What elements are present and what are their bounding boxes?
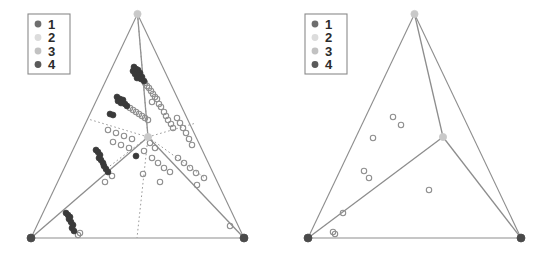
vertex-bottom-left — [304, 234, 312, 242]
legend-swatch-1 — [35, 21, 42, 28]
vertex-apex — [411, 10, 418, 17]
data-point-open-36 — [149, 155, 154, 160]
data-point-open-7 — [149, 99, 154, 104]
legend-swatch-3 — [35, 48, 42, 55]
data-point-open-0 — [390, 114, 395, 119]
data-point-open-42 — [187, 165, 192, 170]
data-point-open-32 — [110, 139, 115, 144]
data-point-filled-18 — [124, 103, 130, 109]
data-point-open-39 — [167, 169, 172, 174]
data-point-open-23 — [177, 120, 182, 125]
data-point-open-22 — [174, 115, 179, 120]
vertex-bottom-right — [240, 234, 248, 242]
legend-swatch-2 — [312, 34, 319, 41]
vertex-bottom-right — [517, 234, 525, 242]
hull-edge-2 — [415, 14, 522, 238]
data-point-open-31 — [129, 136, 134, 141]
partition-edge-1 — [31, 137, 148, 238]
vertex-center — [439, 133, 446, 140]
right-panel-plot: 1234 — [277, 0, 553, 254]
vertex-center — [144, 133, 151, 140]
data-point-open-26 — [186, 136, 191, 141]
data-point-open-1 — [398, 122, 403, 127]
data-point-open-38 — [161, 165, 166, 170]
data-point-filled-20 — [110, 112, 116, 118]
data-point-open-45 — [194, 182, 199, 187]
data-point-open-44 — [157, 179, 162, 184]
data-point-open-48 — [102, 179, 107, 184]
data-point-open-53 — [147, 140, 152, 145]
open-markers — [330, 114, 431, 236]
data-point-open-5 — [426, 187, 431, 192]
legend-swatch-4 — [312, 61, 319, 68]
data-point-filled-38 — [133, 153, 139, 159]
legend-label-4: 4 — [48, 57, 56, 72]
hull-edge-2 — [138, 14, 245, 238]
data-point-open-41 — [181, 160, 186, 165]
left-ternary-panel: 1234 — [0, 0, 277, 254]
vertex-apex — [134, 10, 141, 17]
data-point-filled-29 — [105, 169, 111, 175]
data-point-open-54 — [152, 145, 157, 150]
data-point-open-35 — [141, 148, 146, 153]
legend-label-4: 4 — [325, 57, 333, 72]
data-point-open-34 — [126, 145, 131, 150]
data-point-open-33 — [118, 142, 123, 147]
figure-root: 1234 1234 — [0, 0, 553, 254]
legend-swatch-1 — [312, 21, 319, 28]
data-point-open-37 — [155, 160, 160, 165]
data-point-open-4 — [366, 175, 371, 180]
data-point-open-2 — [370, 135, 375, 140]
left-panel-plot: 1234 — [0, 0, 277, 254]
partition-edge-1 — [308, 137, 443, 238]
data-point-open-27 — [189, 142, 194, 147]
right-ternary-panel: 1234 — [277, 0, 553, 254]
partition-edge-0 — [415, 14, 444, 137]
data-point-open-52 — [140, 171, 145, 176]
data-point-filled-11 — [141, 78, 147, 84]
partition-edge-2 — [443, 137, 521, 238]
legend-swatch-2 — [35, 34, 42, 41]
legend-right: 1234 — [305, 14, 347, 74]
data-point-open-29 — [113, 130, 118, 135]
data-point-open-46 — [201, 175, 206, 180]
data-point-filled-37 — [71, 228, 77, 234]
data-point-open-3 — [361, 168, 366, 173]
data-point-open-40 — [175, 155, 180, 160]
dotted-edge-3 — [102, 137, 148, 172]
legend-swatch-3 — [312, 48, 319, 55]
dotted-edge-4 — [148, 137, 205, 178]
vertex-bottom-left — [27, 234, 35, 242]
data-point-open-28 — [105, 127, 110, 132]
legend-left: 1234 — [28, 14, 70, 74]
legend-swatch-4 — [35, 61, 42, 68]
data-point-open-25 — [183, 130, 188, 135]
data-point-open-24 — [180, 125, 185, 130]
data-point-open-30 — [121, 133, 126, 138]
